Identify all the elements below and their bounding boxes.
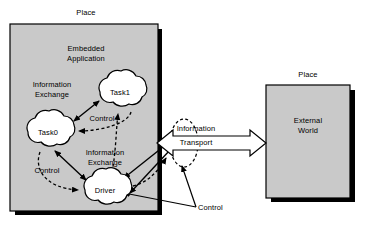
right-place-title: Place [298, 70, 317, 79]
transport-label-line1: Information [177, 124, 216, 133]
external-world-label-line1: External [294, 116, 322, 125]
edge-label-control-1: Control [90, 114, 115, 123]
diagram-canvas: Place Embedded Application Task0 Task1 D… [0, 0, 365, 240]
right-place-box [266, 85, 350, 198]
edge-label-control-2: Control [35, 166, 60, 175]
transport-label-line2: Transport [180, 138, 213, 147]
node-label-task1: Task1 [110, 88, 130, 97]
edge-label-info-exchange-1-line2: Exchange [35, 90, 69, 99]
edge-label-info-exchange-2-line2: Exchange [88, 158, 122, 167]
node-label-task0: Task0 [38, 128, 58, 137]
edge-label-info-exchange-1-line1: Information [33, 80, 72, 89]
control-leader-to-transport [182, 166, 196, 207]
edge-label-info-exchange-2-line1: Information [86, 148, 125, 157]
control-outside-label: Control [198, 203, 223, 212]
left-place-title: Place [76, 8, 95, 17]
node-label-driver: Driver [95, 186, 116, 195]
embedded-application-heading-line1: Embedded [67, 44, 104, 53]
external-world-label-line2: World [298, 126, 318, 135]
embedded-application-heading-line2: Application [67, 54, 105, 63]
